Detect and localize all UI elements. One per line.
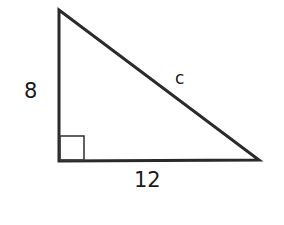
triangle-outline [59,10,259,161]
horizontal-leg-label: 12 [134,170,161,191]
right-angle-marker [60,136,84,160]
hypotenuse-label: c [175,70,184,87]
triangle-diagram: 8 12 c [0,0,284,225]
vertical-leg-label: 8 [24,81,37,102]
